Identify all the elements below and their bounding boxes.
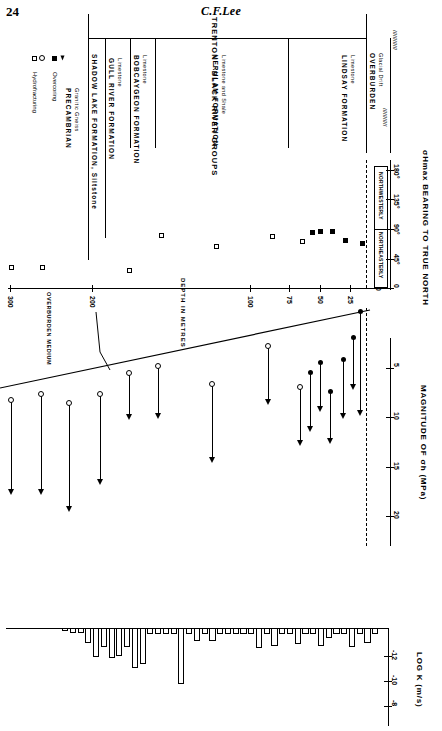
bearing-tick-0 xyxy=(386,288,394,289)
legend-label-overcoring: Overcoring xyxy=(52,72,58,101)
magnitude-range-6 xyxy=(158,366,159,416)
magnitude-marker-filled-12 xyxy=(328,389,333,394)
magnitude-range-14 xyxy=(353,338,354,386)
magnitude-range-3 xyxy=(69,403,70,509)
logk-bar xyxy=(186,628,192,634)
group-bracket-right xyxy=(366,14,367,38)
magnitude-marker-open-5 xyxy=(126,370,132,376)
magnitude-range-4 xyxy=(100,394,101,482)
formation-label-shadow-lake: SHADOW LAKE FORMATION, Siltstone xyxy=(91,54,98,210)
depth-tick-25 xyxy=(350,285,351,292)
magnitude-range-1 xyxy=(11,400,12,492)
logk-bar xyxy=(178,628,184,684)
overburden-hatch-top: //////////// xyxy=(392,30,398,50)
bearing-point-hf-1 xyxy=(9,265,14,270)
logk-bar xyxy=(116,628,122,656)
overburden-hatch-bottom: /////////// xyxy=(382,108,388,126)
bearing-point-hf-5 xyxy=(214,244,219,249)
magnitude-marker-filled-10 xyxy=(308,370,313,375)
magnitude-arrow-11 xyxy=(317,406,323,412)
bearing-point-hf-6 xyxy=(270,234,275,239)
magnitude-arrow-15 xyxy=(357,410,363,416)
magnitude-range-2 xyxy=(41,394,42,492)
boundary-shadowlake-left xyxy=(88,38,89,260)
magnitude-ticklabel-15: 15 xyxy=(393,462,400,470)
formation-sub-verulam: Limestone and Shale xyxy=(221,55,227,114)
bearing-point-hf-3 xyxy=(127,268,132,273)
bearing-zero-depth-dashline xyxy=(366,160,367,288)
logk-bar xyxy=(70,628,76,633)
magnitude-marker-open-7 xyxy=(209,381,215,387)
logk-axis-line xyxy=(388,628,389,726)
logk-bar xyxy=(194,628,200,641)
magnitude-marker-filled-14 xyxy=(351,335,356,340)
depth-axis-line xyxy=(8,288,390,289)
magnitude-tick-5 xyxy=(386,368,394,369)
logk-bar xyxy=(372,628,378,634)
logk-bar xyxy=(93,628,99,657)
bearing-ticklabel-45: 45° xyxy=(393,254,400,265)
bearing-point-oc-3 xyxy=(330,229,335,234)
magnitude-arrow-3 xyxy=(66,506,72,512)
magnitude-range-5 xyxy=(129,373,130,417)
magnitude-arrow-9 xyxy=(297,440,303,446)
magnitude-axis-line xyxy=(390,338,391,546)
logk-bar xyxy=(287,628,293,634)
magnitude-arrow-8 xyxy=(265,399,271,405)
logk-bar xyxy=(124,628,130,647)
stratigraphy-and-bearing-panel: TRENTON - BLACK RIVER GROUPS ///////////… xyxy=(0,0,442,300)
logk-bar xyxy=(310,628,316,634)
logk-bar xyxy=(364,628,370,643)
boundary-gullriver xyxy=(130,38,131,148)
logk-bar xyxy=(341,628,347,634)
formation-label-bobcaygeon: BOBCAYGEON FORMATION xyxy=(133,55,140,164)
magnitude-ticklabel-5: 5 xyxy=(393,363,400,367)
magnitude-marker-open-1 xyxy=(8,397,14,403)
logk-bar xyxy=(240,628,246,634)
bearing-ticklabel-90: 90° xyxy=(393,224,400,235)
logk-ticklabel-minus10: -10 xyxy=(391,675,398,685)
logk-bar xyxy=(264,628,270,634)
depth-ticklabel-0: 0 xyxy=(375,287,382,291)
magnitude-marker-open-8 xyxy=(265,343,271,349)
logk-ticklabel-minus12: -12 xyxy=(391,650,398,660)
logk-axis-label: LOG K (m/s) xyxy=(415,652,424,707)
magnitude-range-8 xyxy=(268,346,269,402)
depth-tick-50 xyxy=(320,285,321,292)
logk-bar xyxy=(171,628,177,634)
bearing-point-oc-2 xyxy=(318,229,323,234)
boundary-overburden xyxy=(390,38,391,153)
bearing-point-hf-4 xyxy=(159,233,164,238)
boundary-shadowlake-right xyxy=(105,38,106,238)
magnitude-marker-filled-11 xyxy=(318,360,323,365)
magnitude-marker-filled-15 xyxy=(358,309,363,314)
overburden-annotation: OVERBURDEN MEDIUM xyxy=(46,292,52,365)
logk-bar xyxy=(101,628,107,647)
bearing-zone-divider xyxy=(374,229,388,230)
magnitude-arrow-14 xyxy=(350,384,356,390)
logk-bar xyxy=(256,628,262,648)
logk-bar xyxy=(233,628,239,634)
depth-tick-100 xyxy=(250,285,251,292)
bearing-zone-label-northeasterly: NORTHEASTERLY xyxy=(378,232,384,279)
bearing-axis-label: σHmax BEARING TO TRUE NORTH xyxy=(421,150,430,306)
boundary-bobcaygeon xyxy=(155,38,156,148)
magnitude-arrow-12 xyxy=(327,438,333,444)
bearing-zone-label-northwesterly: NORTHWESTERLY xyxy=(378,172,384,220)
legend-marker-hydrofracturing-circle xyxy=(39,55,45,61)
formation-label-verulam: VERULAM FORMATION xyxy=(212,55,219,147)
bearing-point-hf-7 xyxy=(300,239,305,244)
depth-tick-75 xyxy=(289,285,290,292)
magnitude-arrow-5 xyxy=(126,414,132,420)
magnitude-arrow-1 xyxy=(8,489,14,495)
magnitude-range-12 xyxy=(330,392,331,440)
logk-ticklabel-minus8: -8 xyxy=(391,700,398,706)
logk-bar xyxy=(295,628,301,644)
group-bracket-left xyxy=(88,14,89,38)
formation-sub-lindsay: Limestone xyxy=(350,55,356,84)
magnitude-marker-open-3 xyxy=(66,400,72,406)
logk-bar xyxy=(109,628,115,658)
logk-bar xyxy=(302,628,308,634)
magnitude-range-11 xyxy=(320,363,321,409)
logk-bar xyxy=(318,628,324,646)
